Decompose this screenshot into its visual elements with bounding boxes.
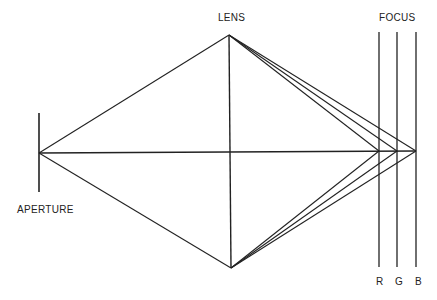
ray-bottom-to-g [231,151,397,268]
optical-axis [39,151,416,153]
ray-bottom-to-r [231,151,379,268]
ray-bottom-to-b [231,151,416,268]
focus-label: FOCUS [379,12,416,23]
lens-label: LENS [218,12,245,23]
diagram-canvas [0,0,437,300]
r-label: R [376,276,384,287]
ray-top-to-r [229,35,379,151]
b-label: B [415,276,422,287]
ray-top-to-b [229,35,416,151]
ray-top-to-g [229,35,397,151]
aperture-label: APERTURE [17,204,74,215]
g-label: G [395,276,403,287]
ray-source-to-lens-top [39,35,229,153]
